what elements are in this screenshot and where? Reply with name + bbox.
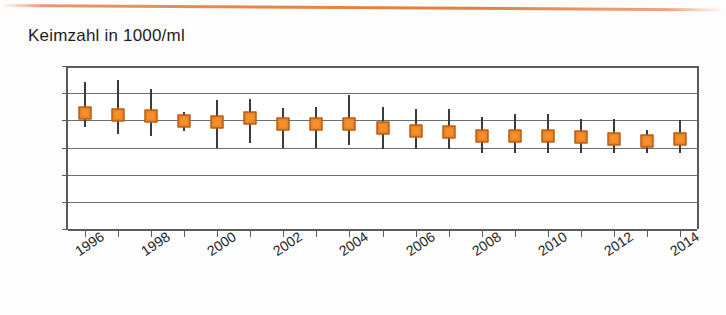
gridline-5 [68,202,697,203]
y-tick-0 [62,229,69,230]
x-axis-label-2002: 2002 [270,228,305,259]
x-axis-label-2014: 2014 [667,228,702,259]
x-tick-2009 [515,229,516,237]
x-axis-label-1996: 1996 [72,228,107,259]
data-point-1997[interactable] [111,108,124,121]
data-point-2010[interactable] [542,129,555,142]
gridline-10 [68,175,697,176]
x-tick-2003 [316,229,317,237]
chart-title: Keimzahl in 1000/ml [28,26,185,46]
data-point-1998[interactable] [144,109,157,122]
x-tick-2001 [250,229,251,237]
x-axis-label-1998: 1998 [138,228,173,259]
data-point-2004[interactable] [343,117,356,130]
data-point-2000[interactable] [210,115,223,128]
data-point-2009[interactable] [508,129,521,142]
y-tick-15 [62,148,69,149]
y-tick-30 [62,66,69,67]
data-point-2014[interactable] [674,132,687,145]
data-point-2003[interactable] [310,118,323,131]
x-axis-label-2000: 2000 [204,228,239,259]
x-axis-label-2004: 2004 [336,228,371,259]
data-point-2002[interactable] [277,118,290,131]
x-axis-label-2012: 2012 [601,228,636,259]
x-axis-label-2010: 2010 [535,228,570,259]
x-tick-2013 [647,229,648,237]
y-tick-5 [62,202,69,203]
data-point-2006[interactable] [409,125,422,138]
gridline-30 [68,66,697,68]
y-tick-10 [62,175,69,176]
y-tick-25 [62,93,69,94]
chart-canvas: Keimzahl in 1000/ml 05101520253019961998… [0,0,726,315]
error-bar-1996 [84,82,86,127]
data-point-2013[interactable] [641,134,654,147]
data-point-2008[interactable] [475,129,488,142]
x-axis-label-2008: 2008 [469,228,504,259]
x-tick-2007 [449,229,450,237]
error-bar-1997 [117,80,119,134]
top-accent-rule [0,4,726,11]
data-point-1996[interactable] [78,107,91,120]
gridline-25 [68,93,697,94]
x-axis-label-2006: 2006 [403,228,438,259]
data-point-2012[interactable] [608,133,621,146]
plot-area: 0510152025301996199820002002200420062008… [66,66,699,229]
x-tick-1999 [184,229,185,237]
data-point-2007[interactable] [442,126,455,139]
x-tick-2011 [581,229,582,237]
data-point-2005[interactable] [376,121,389,134]
data-point-1999[interactable] [177,115,190,128]
x-tick-1997 [118,229,119,237]
data-point-2001[interactable] [244,112,257,125]
x-tick-2005 [383,229,384,237]
y-tick-20 [62,120,69,121]
data-point-2011[interactable] [575,131,588,144]
